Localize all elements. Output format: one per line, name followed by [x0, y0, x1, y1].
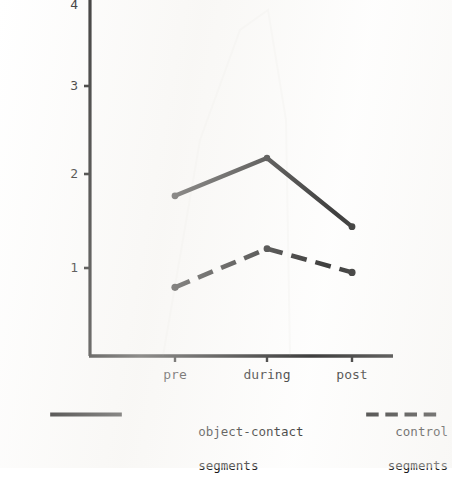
data-point-object-contact-pre [172, 192, 179, 199]
y-tick-label-4: 4 [62, 0, 78, 11]
y-tick-label-1: 1 [62, 261, 78, 274]
legend-label-line2: segments [198, 458, 258, 473]
line-chart-plot [0, 0, 452, 400]
series-object-contact-segments [172, 155, 356, 230]
y-tick-label-3: 3 [62, 79, 78, 92]
x-tick-label-post: post [322, 368, 382, 381]
legend-label-line1: control [395, 424, 448, 439]
x-tick-label-pre: pre [145, 368, 205, 381]
data-point-object-contact-post [349, 223, 356, 230]
legend-label-control-segments: control segments [270, 406, 448, 477]
series-control-segments [171, 245, 355, 291]
legend-label-line2: segments [388, 458, 448, 473]
y-tick-label-2: 2 [62, 167, 78, 180]
series-control-line [175, 249, 352, 288]
data-point-control-post [348, 269, 355, 276]
data-point-control-during [264, 245, 271, 252]
data-point-object-contact-during [264, 155, 270, 161]
series-object-contact-line [175, 158, 352, 227]
x-tick-label-during: during [227, 368, 307, 381]
legend-entry-object-contact-segments: object-contact segments [42, 398, 242, 446]
data-point-control-pre [171, 284, 178, 291]
legend-entry-control-segments: control segments [268, 398, 452, 446]
legend-swatch-solid-line-icon [42, 412, 130, 417]
scan-bleedthrough-artifact [163, 10, 290, 356]
chart-legend: object-contact segments control segments [0, 398, 452, 458]
